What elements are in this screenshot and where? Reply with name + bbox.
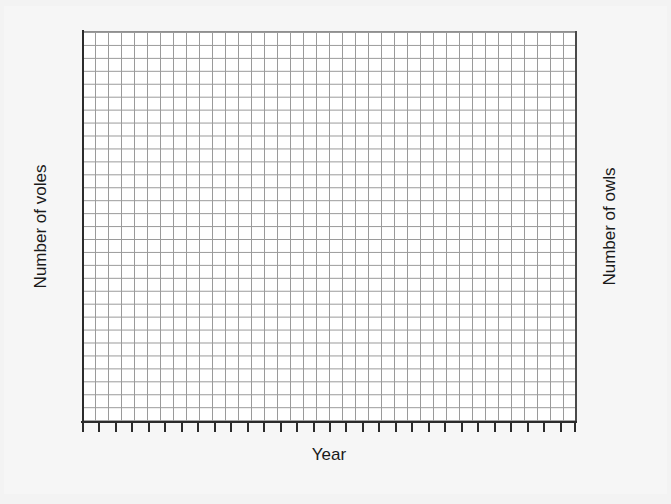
x-axis-tick xyxy=(313,423,315,432)
x-axis-tick xyxy=(247,423,249,432)
x-axis-tick xyxy=(280,423,282,432)
x-axis-tick xyxy=(82,423,84,432)
x-axis-tick xyxy=(395,423,397,432)
axis-top-spine xyxy=(82,31,576,32)
x-axis-tick xyxy=(181,423,183,432)
x-axis-tick xyxy=(115,423,117,432)
x-axis-ticks xyxy=(82,423,576,433)
x-axis-tick xyxy=(428,423,430,432)
x-axis-tick xyxy=(494,423,496,432)
x-axis-tick xyxy=(510,423,512,432)
x-axis-tick xyxy=(543,423,545,432)
x-axis-tick xyxy=(230,423,232,432)
plot-area[interactable] xyxy=(82,32,576,421)
x-axis-tick xyxy=(574,423,576,432)
x-axis-tick xyxy=(131,423,133,432)
x-axis-tick xyxy=(378,423,380,432)
x-axis-tick xyxy=(296,423,298,432)
x-axis-tick xyxy=(164,423,166,432)
x-axis-tick xyxy=(461,423,463,432)
x-axis-tick xyxy=(263,423,265,432)
y-axis-right-title: Number of owls xyxy=(597,32,623,421)
x-axis-title: Year xyxy=(82,444,576,466)
x-axis-tick xyxy=(560,423,562,432)
x-axis-tick xyxy=(98,423,100,432)
x-axis-tick xyxy=(345,423,347,432)
x-axis-tick xyxy=(214,423,216,432)
axis-left-spine xyxy=(82,30,84,423)
x-axis-tick xyxy=(527,423,529,432)
x-axis-tick xyxy=(444,423,446,432)
x-axis-tick xyxy=(148,423,150,432)
x-axis-tick xyxy=(329,423,331,432)
graph-page: Number of voles Number of owls Year xyxy=(0,0,671,504)
x-axis-tick xyxy=(477,423,479,432)
x-axis-tick xyxy=(411,423,413,432)
y-axis-left-title: Number of voles xyxy=(28,32,54,421)
x-axis-tick xyxy=(197,423,199,432)
axis-right-spine xyxy=(575,31,577,422)
grid-lines xyxy=(82,32,576,421)
x-axis-tick xyxy=(362,423,364,432)
